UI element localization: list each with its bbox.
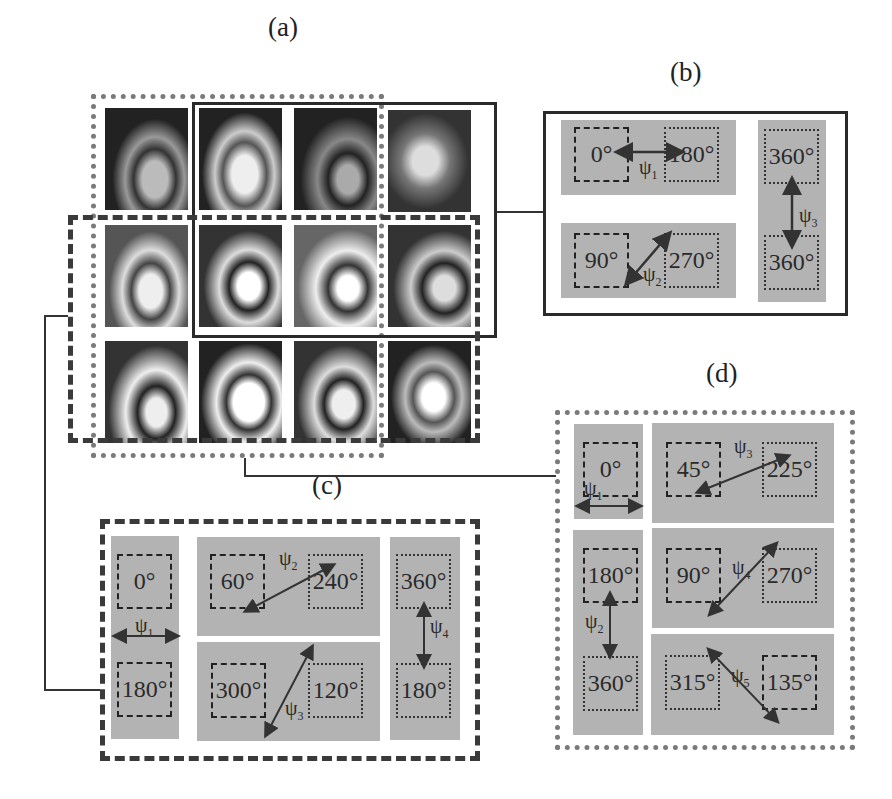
angle-box-360: 360° (764, 129, 819, 184)
psi-label: ψ1 (639, 156, 658, 183)
psi-label: ψ3 (285, 697, 304, 724)
angle-box-315: 315° (665, 655, 720, 710)
psi-label: ψ1 (584, 477, 603, 504)
angle-box-60: 60° (210, 554, 265, 609)
angle-box-0: 0° (574, 127, 629, 182)
angle-box-180: 180° (117, 662, 172, 717)
panel-b-group-psi1: 0° 180° ψ1 (561, 120, 736, 195)
angle-box-360: 360° (396, 554, 451, 609)
panel-d-group-psi3: 45° 225° ψ3 (652, 423, 834, 523)
psi-label: ψ4 (430, 615, 449, 642)
panel-d-group-psi4: 90° 270° ψ4 (652, 528, 834, 628)
group-c-outline (68, 215, 480, 443)
panel-label-d: (d) (706, 358, 737, 389)
angle-box-270: 270° (762, 548, 817, 603)
panel-b-group-psi3: 360° 360° ψ3 (758, 120, 826, 302)
panel-label-c: (c) (312, 470, 342, 501)
panel-b-group-psi2: 90° 270° ψ2 (561, 223, 736, 298)
angle-box-300: 300° (211, 663, 266, 718)
panel-label-a: (a) (268, 12, 298, 43)
angle-box-360: 360° (583, 656, 638, 711)
angle-box-240: 240° (308, 554, 363, 609)
angle-box-180: 180° (583, 548, 638, 603)
panel-c-group-psi3: 300° 120° ψ3 (197, 642, 380, 741)
angle-box-180: 180° (664, 127, 719, 182)
psi-label: ψ2 (643, 263, 662, 290)
angle-box-270: 270° (664, 233, 719, 288)
psi-label: ψ3 (734, 435, 753, 462)
angle-box-135: 135° (762, 655, 817, 710)
angle-box-180: 180° (396, 663, 451, 718)
angle-box-225: 225° (762, 442, 817, 497)
panel-d-group-psi2: 180° 360° ψ2 (573, 530, 643, 735)
psi-label: ψ1 (135, 614, 154, 641)
panel-label-b: (b) (670, 57, 701, 88)
angle-box-90: 90° (666, 548, 721, 603)
psi-label: ψ2 (279, 547, 298, 574)
angle-box-0: 0° (117, 554, 172, 609)
psi-label: ψ2 (585, 610, 604, 637)
panel-d-group-psi1: 0° ψ1 (574, 424, 643, 519)
angle-box-45: 45° (666, 442, 721, 497)
psi-label: ψ4 (732, 556, 751, 583)
angle-box-360: 360° (764, 235, 819, 290)
panel-c-group-psi1: 0° 180° ψ1 (111, 536, 179, 739)
panel-c-group-psi2: 60° 240° ψ2 (197, 537, 380, 636)
psi-label: ψ3 (799, 204, 818, 231)
panel-c-group-psi4: 360° 180° ψ4 (390, 537, 460, 740)
psi-label: ψ5 (731, 664, 750, 691)
angle-box-90: 90° (574, 233, 629, 288)
angle-box-120: 120° (308, 663, 363, 718)
panel-d-group-psi5: 315° 135° ψ5 (651, 634, 834, 735)
